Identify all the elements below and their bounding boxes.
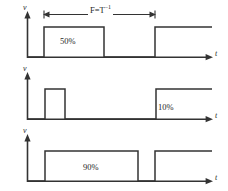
v-axis-label: v — [23, 127, 27, 135]
t-axis-label: t — [215, 112, 217, 120]
t-axis-label: t — [215, 174, 217, 182]
duty-cycle-label: 10% — [158, 103, 174, 112]
period-annotation-label: F=T−1 — [88, 6, 113, 15]
pulse-train-10 — [28, 89, 213, 119]
waveform-plot-90 — [0, 124, 228, 191]
waveform-panel-90: v t 90% — [0, 124, 228, 186]
duty-cycle-label: 50% — [60, 37, 76, 46]
t-axis-90 — [28, 178, 214, 184]
period-annotation-prefix: F=T — [90, 5, 105, 15]
waveform-plot-10 — [0, 62, 228, 124]
pwm-duty-cycle-figure: v t F=T−1 50% v t 10% — [0, 0, 228, 191]
waveform-panel-10: v t 10% — [0, 62, 228, 124]
t-axis-label: t — [215, 50, 217, 58]
duty-cycle-label: 90% — [83, 163, 99, 172]
pulse-train-50 — [28, 27, 213, 57]
period-annotation-exponent: −1 — [105, 4, 111, 10]
pulse-train-90 — [28, 151, 213, 181]
v-axis-10 — [24, 72, 30, 120]
v-axis-label: v — [23, 65, 27, 73]
v-axis-50 — [24, 11, 30, 58]
v-axis-label: v — [23, 4, 27, 12]
v-axis-90 — [24, 134, 30, 182]
waveform-plot-50 — [0, 0, 228, 62]
waveform-panel-50: v t F=T−1 50% — [0, 0, 228, 62]
